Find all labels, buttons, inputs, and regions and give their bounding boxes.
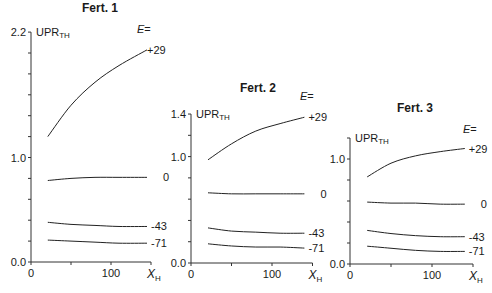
y-tick-label: 0.0 — [171, 257, 186, 269]
series-label: -71 — [308, 242, 324, 254]
series-label: 0 — [320, 188, 326, 200]
y-tick-label: 0.0 — [11, 256, 26, 268]
x-tick-label: 0 — [28, 267, 34, 279]
series-label: -71 — [469, 245, 485, 257]
series-line — [48, 222, 147, 226]
series-line — [48, 50, 147, 137]
x-tick-label: 100 — [263, 268, 281, 280]
y-tick-label: 1.0 — [11, 152, 26, 164]
y-tick-label: 1.0 — [171, 151, 186, 163]
series-label: +29 — [308, 111, 327, 123]
series-label: +29 — [147, 44, 166, 56]
series-line — [48, 177, 147, 180]
y-tick-label: 1.0 — [330, 153, 345, 165]
series-label: 0 — [163, 171, 169, 183]
series-line — [208, 193, 304, 194]
x-tick-label: 0 — [188, 268, 194, 280]
series-label: 0 — [481, 198, 487, 210]
series-line — [48, 240, 147, 243]
y-axis-label: UPRTH — [36, 26, 70, 40]
y-axis-label: UPRTH — [355, 132, 389, 146]
series-line — [367, 246, 465, 251]
series-label: -71 — [151, 237, 167, 249]
y-tick-label: 1.4 — [171, 108, 186, 120]
series-line — [367, 149, 465, 177]
chart-panel-2: Fert. 20.01.01.40100UPRTHXHE=+290-43-71 — [171, 81, 327, 284]
legend-title: E= — [300, 90, 314, 102]
x-tick-label: 0 — [347, 269, 353, 281]
legend-title: E= — [463, 123, 477, 135]
series-line — [208, 228, 304, 233]
chart-panel-3: Fert. 30.01.00100UPRTHXHE=+290-43-71 — [330, 101, 488, 285]
series-label: -43 — [308, 227, 324, 239]
series-label: -43 — [469, 231, 485, 243]
x-tick-label: 100 — [423, 269, 441, 281]
series-line — [367, 202, 465, 204]
x-axis-label: XH — [146, 267, 161, 283]
x-axis-label: XH — [308, 268, 323, 284]
panel-title: Fert. 1 — [82, 1, 118, 15]
panel-title: Fert. 3 — [397, 101, 433, 115]
figure: Fert. 10.01.02.20100UPRTHXHE=+290-43-71F… — [0, 0, 492, 293]
series-label: -43 — [151, 220, 167, 232]
x-axis-label: XH — [468, 269, 483, 285]
panel-title: Fert. 2 — [240, 81, 276, 95]
series-line — [208, 244, 304, 248]
y-tick-label: 0.0 — [330, 258, 345, 270]
series-label: +29 — [469, 143, 488, 155]
series-line — [367, 230, 465, 236]
series-line — [208, 117, 304, 160]
legend-title: E= — [137, 23, 151, 35]
x-tick-label: 100 — [102, 267, 120, 279]
y-axis-label: UPRTH — [196, 108, 230, 122]
y-tick-label: 2.2 — [11, 26, 26, 38]
chart-panel-1: Fert. 10.01.02.20100UPRTHXHE=+290-43-71 — [11, 1, 169, 283]
